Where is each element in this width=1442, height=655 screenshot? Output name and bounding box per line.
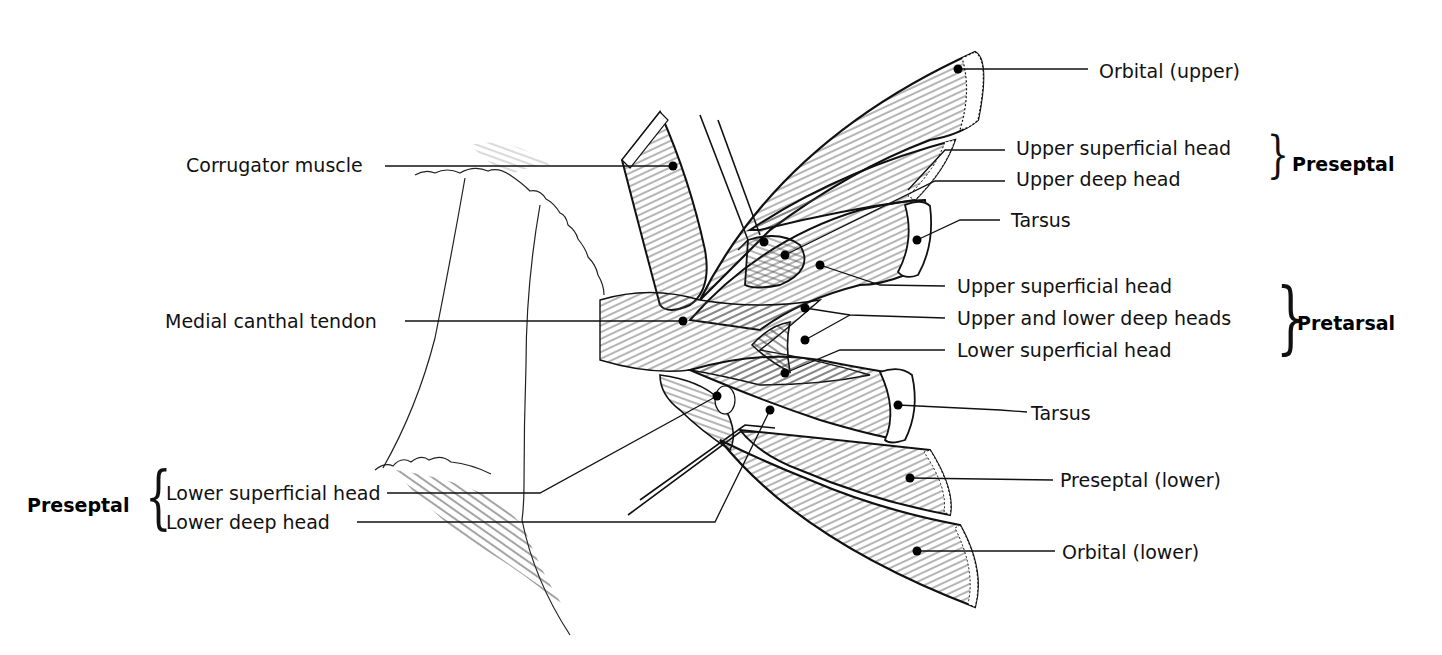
bone-outline	[375, 168, 604, 635]
corrugator-muscle	[622, 112, 707, 310]
label-orbital-lower: Orbital (lower)	[1062, 541, 1199, 563]
group-pretarsal: Pretarsal	[1297, 312, 1395, 334]
label-lower-superficial-head-preseptal: Lower superficial head	[166, 482, 381, 504]
label-preseptal-lower: Preseptal (lower)	[1060, 469, 1221, 491]
label-upper-superficial-head-preseptal: Upper superficial head	[1016, 137, 1231, 159]
bone-shading	[395, 470, 565, 610]
group-preseptal-lower: Preseptal	[27, 494, 129, 516]
group-preseptal-upper: Preseptal	[1292, 153, 1394, 175]
label-lower-deep-head: Lower deep head	[166, 511, 330, 533]
label-medial-canthal-tendon: Medial canthal tendon	[165, 310, 377, 332]
label-tarsus-lower: Tarsus	[1031, 402, 1091, 424]
brace-preseptal-upper: }	[1267, 130, 1289, 180]
label-lower-superficial-head-pretarsal: Lower superficial head	[957, 339, 1172, 361]
label-tarsus-upper: Tarsus	[1011, 209, 1071, 231]
label-corrugator-muscle: Corrugator muscle	[186, 154, 363, 176]
label-upper-and-lower-deep-heads: Upper and lower deep heads	[957, 307, 1231, 329]
label-orbital-upper: Orbital (upper)	[1099, 60, 1240, 82]
label-upper-deep-head: Upper deep head	[1016, 168, 1181, 190]
label-upper-superficial-head-pretarsal: Upper superficial head	[957, 275, 1172, 297]
